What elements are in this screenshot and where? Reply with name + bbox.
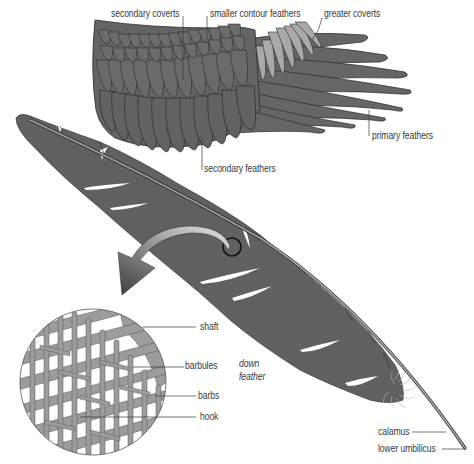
label-primary-feathers: primary feathers xyxy=(372,129,433,141)
label-secondary-coverts: secondary coverts xyxy=(111,7,179,19)
magnified-barb-structure xyxy=(15,300,196,460)
label-lower-umbilicus: lower umbilicus xyxy=(378,442,436,454)
label-shaft: shaft xyxy=(200,320,218,332)
label-smaller-contour-feathers: smaller contour feathers xyxy=(210,7,300,19)
label-down-feather-line2: feather xyxy=(239,370,265,382)
diagram-artwork xyxy=(0,0,474,464)
label-secondary-feathers: secondary feathers xyxy=(204,162,276,174)
label-hook: hook xyxy=(200,410,218,422)
label-greater-coverts: greater coverts xyxy=(324,7,380,19)
wing-illustration xyxy=(93,16,412,170)
label-barbules: barbules xyxy=(185,359,217,371)
label-barbs: barbs xyxy=(198,389,219,401)
label-down-feather-line1: down xyxy=(239,357,259,369)
feather-anatomy-diagram: secondary coverts smaller contour feathe… xyxy=(0,0,474,464)
label-calamus: calamus xyxy=(378,425,409,437)
